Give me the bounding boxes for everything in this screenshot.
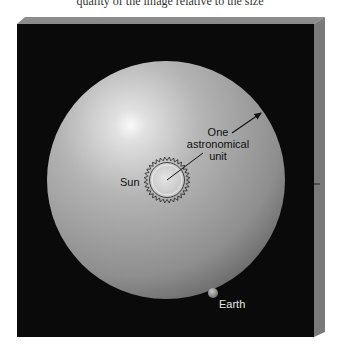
box-top-face: [17, 17, 325, 24]
label-au-line3: unit: [209, 150, 227, 162]
label-au-line1: One: [208, 126, 229, 138]
box-side-face: [314, 17, 325, 337]
label-sun: Sun: [120, 176, 140, 188]
astronomical-unit-diagram: One astronomical unit Sun Earth: [0, 0, 340, 350]
label-earth: Earth: [219, 298, 245, 310]
label-au-line2: astronomical: [187, 138, 249, 150]
earth-icon: [208, 288, 218, 298]
